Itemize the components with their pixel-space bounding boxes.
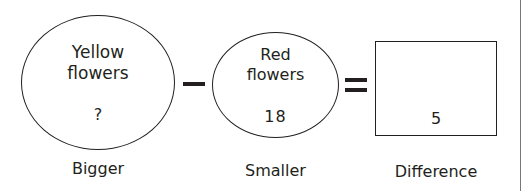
equals-sign-bottom: [345, 88, 367, 92]
bigger-value: ?: [21, 105, 175, 125]
page-edge-line: [520, 0, 521, 191]
smaller-title-line2: flowers: [212, 65, 339, 85]
bigger-label: Bigger: [21, 159, 175, 179]
smaller-title-line1: Red: [212, 45, 339, 65]
bigger-title-line1: Yellow: [21, 42, 175, 62]
difference-label: Difference: [375, 162, 497, 182]
smaller-label: Smaller: [212, 161, 339, 181]
bigger-title-line2: flowers: [21, 63, 175, 83]
minus-sign: [183, 82, 205, 86]
equals-sign-top: [345, 78, 367, 82]
smaller-value: 18: [212, 107, 339, 127]
difference-value: 5: [375, 109, 497, 129]
